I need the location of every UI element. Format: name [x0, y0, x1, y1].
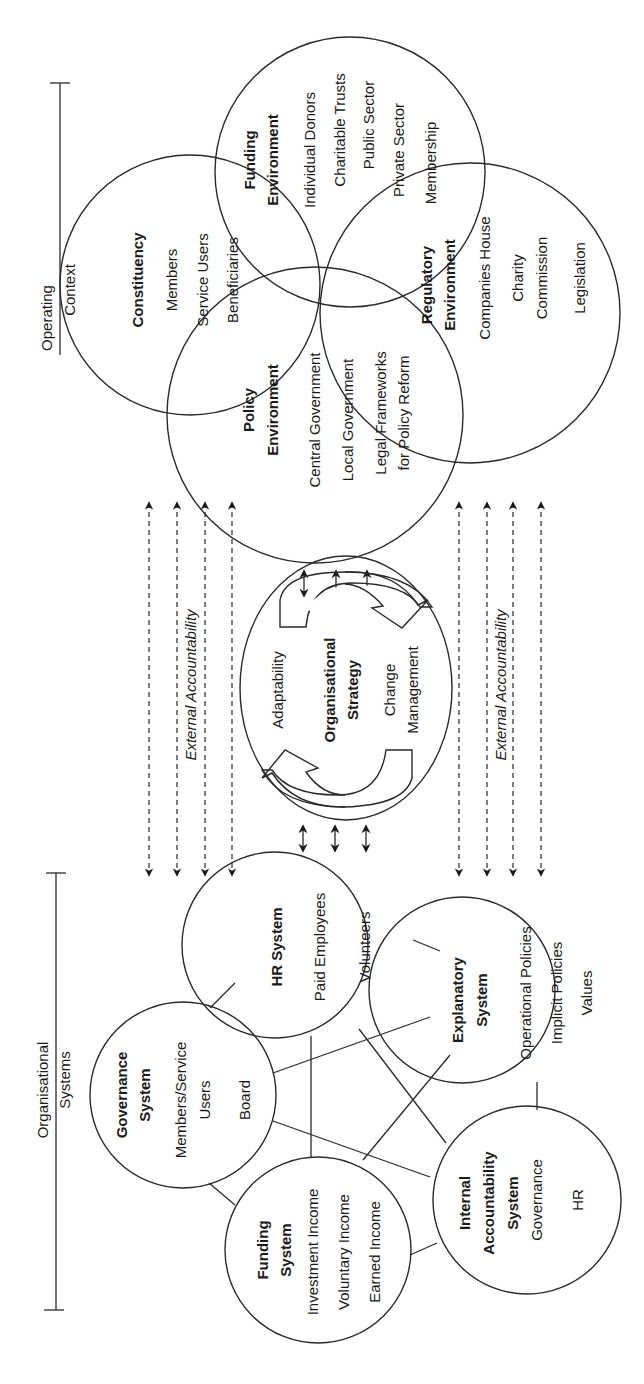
internal-accountability-item: HR — [569, 1189, 586, 1211]
policy-environment-item: Central Government — [306, 352, 323, 488]
funding-system-item: Investment Income — [304, 1189, 321, 1316]
regulatory-environment-text: Regulatory Environment Companies House C… — [418, 216, 588, 339]
organisational-systems-diagram: Operating Context Organisational Systems… — [0, 0, 644, 1384]
policy-environment-text: Policy Environment Central Government Lo… — [240, 351, 412, 487]
change-label: Change — [381, 664, 398, 717]
organisational-label: Organisational — [34, 1042, 51, 1139]
internal-accountability-title: Internal — [456, 1176, 473, 1230]
funding-system-item: Voluntary Income — [335, 1194, 352, 1310]
policy-environment-title: Policy — [240, 387, 257, 432]
governance-system-text: Governance System Members/Service Users … — [113, 1042, 253, 1159]
internal-accountability-system-text: Internal Accountability System Governanc… — [456, 1151, 586, 1255]
governance-system-title: Governance — [113, 1052, 130, 1139]
constituency-text: Constituency Members Service Users Benef… — [129, 232, 241, 328]
explanatory-system-item: Operational Policies — [517, 926, 534, 1059]
explanatory-system-item: Implicit Policies — [548, 942, 565, 1045]
policy-environment-title: Environment — [264, 364, 281, 456]
external-accountability-right-label: External Accountability — [492, 608, 509, 761]
explanatory-system-title: Explanatory — [449, 956, 466, 1043]
policy-environment-item: Local Government — [339, 358, 356, 481]
internal-accountability-item: Governance — [528, 1159, 545, 1241]
context-label: Context — [61, 263, 78, 316]
internal-accountability-title: System — [504, 1176, 521, 1229]
constituency-circle — [60, 155, 320, 415]
constituency-item: Beneficiaries — [224, 237, 241, 323]
funding-environment-item: Private Sector — [390, 103, 407, 197]
funding-environment-text: Funding Environment Individual Donors Ch… — [241, 73, 439, 208]
governance-system-item: Members/Service — [172, 1042, 189, 1159]
regulatory-environment-title: Regulatory — [418, 245, 435, 324]
governance-system-item: Board — [236, 1080, 253, 1120]
hr-system-title: HR System — [268, 907, 285, 986]
funding-environment-item: Public Sector — [360, 81, 377, 169]
funding-environment-item: Individual Donors — [301, 92, 318, 208]
strategy-hr-double-arrows — [303, 826, 366, 851]
regulatory-environment-item: Legislation — [571, 242, 588, 314]
systems-label: Systems — [56, 1051, 73, 1109]
funding-environment-title: Funding — [241, 130, 258, 189]
strategy-title: Organisational — [321, 637, 338, 742]
regulatory-environment-title: Environment — [441, 239, 458, 331]
funding-system-title: Funding — [254, 1220, 271, 1279]
funding-environment-item: Charitable Trusts — [331, 73, 348, 186]
external-accountability-left-label: External Accountability — [182, 608, 199, 761]
funding-system-item: Earned Income — [366, 1201, 383, 1303]
regulatory-environment-item: Commission — [533, 237, 550, 320]
internal-accountability-title: Accountability — [480, 1151, 497, 1255]
external-accountability-left: External Accountability — [149, 503, 232, 875]
constituency-title: Constituency — [129, 232, 146, 328]
constituency-item: Members — [163, 249, 180, 312]
regulatory-environment-item: Companies House — [476, 216, 493, 339]
constituency-item: Service Users — [194, 233, 211, 326]
operating-label: Operating — [38, 285, 55, 351]
funding-system-text: Funding System Investment Income Volunta… — [254, 1189, 383, 1316]
cycle-arrow-bottom-icon — [262, 750, 412, 807]
explanatory-system-text: Explanatory System Operational Policies … — [449, 926, 595, 1059]
hr-system-item: Volunteers — [356, 912, 373, 983]
policy-environment-item: Legal Frameworks — [372, 351, 389, 474]
external-accountability-right: External Accountability — [459, 503, 541, 875]
organisational-strategy: Adaptability Organisational Strategy Cha… — [240, 556, 452, 820]
hr-system-text: HR System Paid Employees Volunteers — [268, 893, 373, 1001]
regulatory-environment-item: Charity — [509, 254, 526, 302]
policy-environment-item: for Policy Reform — [395, 355, 412, 470]
cycle-arrow-head-left-icon — [262, 750, 345, 807]
organisational-systems-label: Organisational Systems — [34, 1042, 73, 1139]
explanatory-system-title: System — [473, 973, 490, 1026]
funding-environment-title: Environment — [264, 114, 281, 206]
strategy-title: Strategy — [344, 659, 361, 720]
operating-context-label: Operating Context — [38, 263, 78, 351]
funding-environment-item: Membership — [422, 122, 439, 205]
hr-system-item: Paid Employees — [311, 893, 328, 1001]
funding-system-title: System — [277, 1223, 294, 1276]
governance-system-item: Users — [196, 1080, 213, 1119]
explanatory-system-item: Values — [578, 971, 595, 1016]
management-label: Management — [404, 645, 421, 733]
adaptability-label: Adaptability — [269, 651, 286, 729]
governance-system-title: System — [136, 1068, 153, 1121]
